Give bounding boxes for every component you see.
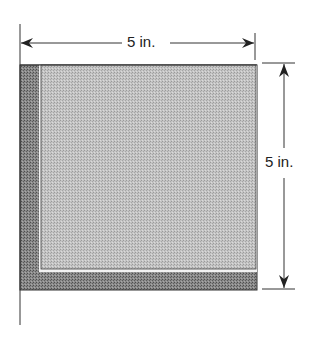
inner-square <box>41 65 256 269</box>
right-dimension <box>262 63 295 289</box>
top-dimension-label: 5 in. <box>127 33 155 51</box>
right-dimension-label: 5 in. <box>265 153 293 171</box>
